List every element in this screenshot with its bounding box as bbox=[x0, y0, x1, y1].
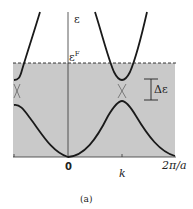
band-structure-diagram bbox=[0, 0, 193, 209]
occupied-states-region bbox=[13, 63, 175, 157]
x-tick-zero: 0 bbox=[65, 162, 72, 172]
gap-label: Δε bbox=[154, 84, 168, 95]
energy-axis-label: ε bbox=[74, 14, 80, 25]
fermi-energy-superscript: F bbox=[75, 50, 80, 58]
x-tick-k: k bbox=[119, 168, 126, 179]
fermi-energy-label: εF bbox=[69, 51, 80, 63]
figure-caption: (a) bbox=[80, 195, 92, 204]
x-tick-2pi-over-a: 2π/a bbox=[162, 160, 187, 171]
